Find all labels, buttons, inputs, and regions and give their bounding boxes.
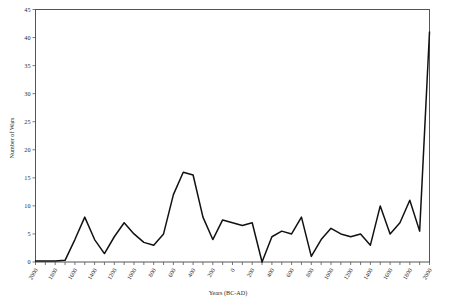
y-tick-label: 15 (24, 174, 30, 181)
y-tick-label: 20 (24, 146, 30, 153)
y-tick-label: 0 (27, 258, 30, 265)
y-tick-label: 35 (24, 62, 30, 69)
chart-container: 051015202530354045 200018001600140012001… (0, 0, 449, 303)
y-tick-label: 45 (24, 6, 30, 13)
y-tick-label: 5 (27, 230, 30, 237)
y-tick-label: 10 (24, 202, 30, 209)
x-axis-title: Years (BC-AD) (209, 289, 248, 297)
y-tick-label: 30 (24, 90, 30, 97)
y-tick-label: 25 (24, 118, 30, 125)
y-axis-title: Number of Wars (8, 117, 15, 159)
y-tick-label: 40 (24, 34, 30, 41)
line-chart: 051015202530354045 200018001600140012001… (0, 0, 449, 303)
chart-background (0, 0, 449, 303)
